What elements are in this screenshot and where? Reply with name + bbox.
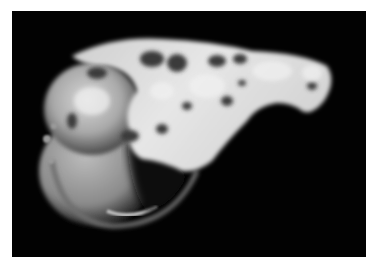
specimen-photo — [12, 11, 366, 257]
specimen-illustration — [12, 11, 366, 257]
